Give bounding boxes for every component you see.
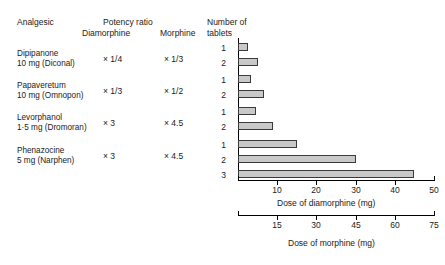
axis-tick-label: 30: [303, 220, 329, 230]
potency-morphine: × 4.5: [164, 118, 183, 128]
axis-tick: [238, 211, 239, 215]
tablet-count-label: 2: [214, 155, 226, 165]
bar-levorphanol-2: [238, 122, 273, 130]
axis-tick-label: 40: [382, 185, 408, 195]
figure-analgesic-potency: Analgesic Potency ratio Diamorphine Morp…: [0, 0, 445, 265]
bar-chart-plot-area: [238, 40, 434, 176]
bar-dipipanone-1: [238, 43, 248, 51]
tablet-count-label: 3: [214, 170, 226, 180]
drug-name: Levorphanol: [17, 113, 62, 124]
table-row: Dipipanone 10 mg (Diconal) × 1/4 × 1/3: [17, 49, 207, 75]
potency-diamorphine: × 3: [103, 118, 115, 128]
axis-tick-label: 10: [264, 185, 290, 195]
table-row: Papaveretum 10 mg (Omnopon) × 1/3 × 1/2: [17, 81, 207, 107]
drug-dose-brand: 5 mg (Narphen): [17, 156, 74, 167]
drug-dose-brand: 10 mg (Diconal): [17, 59, 75, 70]
tablet-count-label: 1: [214, 43, 226, 53]
bar-papaveretum-2: [238, 90, 264, 98]
potency-diamorphine: × 3: [103, 151, 115, 161]
bar-phenazocine-1: [238, 140, 297, 148]
potency-diamorphine: × 1/3: [103, 86, 122, 96]
diamorphine-axis-title: Dose of diamorphine (mg): [277, 198, 375, 208]
bar-phenazocine-2: [238, 155, 356, 163]
bar-levorphanol-1: [238, 107, 256, 115]
axis-tick-label: 15: [264, 220, 290, 230]
drug-name: Phenazocine: [17, 146, 64, 157]
column-header-potency-ratio: Potency ratio: [103, 17, 153, 27]
table-row: Levorphanol 1·5 mg (Dromoran) × 3 × 4.5: [17, 113, 207, 139]
tablet-count-label: 2: [214, 122, 226, 132]
tablet-count-label: 1: [214, 140, 226, 150]
axis-tick: [238, 176, 239, 180]
axis-tick: [434, 176, 435, 180]
axis-tick-label: 45: [343, 220, 369, 230]
potency-morphine: × 1/3: [164, 54, 183, 64]
diamorphine-axis-line: [238, 180, 435, 181]
potency-morphine: × 4.5: [164, 151, 183, 161]
potency-morphine: × 1/2: [164, 86, 183, 96]
column-header-analgesic: Analgesic: [17, 17, 54, 27]
column-header-number-of-tablets: Number of: [207, 17, 247, 27]
column-header-diamorphine: Diamorphine: [82, 28, 130, 38]
drug-name: Papaveretum: [17, 81, 66, 92]
tablet-count-label: 2: [214, 58, 226, 68]
bar-dipipanone-2: [238, 58, 258, 66]
bar-phenazocine-3: [238, 170, 414, 178]
morphine-axis-title: Dose of morphine (mg): [288, 238, 375, 248]
column-header-tablets-line2: tablets: [207, 28, 232, 38]
axis-tick-label: 30: [343, 185, 369, 195]
tablet-count-label: 2: [214, 90, 226, 100]
axis-tick: [434, 211, 435, 215]
tablet-count-label: 1: [214, 107, 226, 117]
axis-tick-label: 75: [421, 220, 445, 230]
drug-dose-brand: 10 mg (Omnopon): [17, 91, 83, 102]
drug-name: Dipipanone: [17, 49, 58, 60]
axis-tick-label: 50: [421, 185, 445, 195]
bar-papaveretum-1: [238, 75, 251, 83]
potency-diamorphine: × 1/4: [103, 54, 122, 64]
axis-tick-label: 20: [303, 185, 329, 195]
drug-dose-brand: 1·5 mg (Dromoran): [17, 123, 87, 134]
table-row: Phenazocine 5 mg (Narphen) × 3 × 4.5: [17, 146, 207, 172]
tablet-count-label: 1: [214, 75, 226, 85]
morphine-axis-line: [238, 215, 435, 216]
column-header-morphine: Morphine: [160, 28, 195, 38]
axis-tick-label: 60: [382, 220, 408, 230]
